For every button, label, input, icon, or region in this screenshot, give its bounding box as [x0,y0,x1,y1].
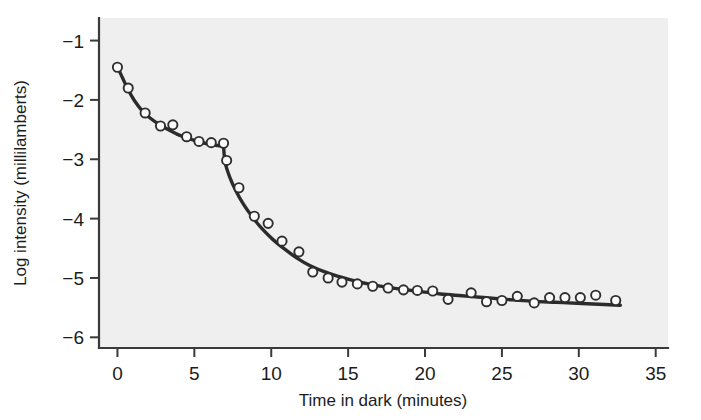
figure-root: −1−2−3−4−5−6 05101520253035 Time in dark… [0,0,701,420]
data-point-marker [513,292,522,301]
y-axis-title: Log intensity (millilamberts) [11,80,30,286]
data-point-marker [294,247,303,256]
data-point-marker [413,286,422,295]
y-axis-tick-labels: −1−2−3−4−5−6 [62,31,84,349]
y-tick-label: −2 [62,90,84,111]
data-point-marker [611,296,620,305]
data-point-marker [399,285,408,294]
data-point-marker [591,291,600,300]
y-tick-label: −3 [62,149,84,170]
data-point-marker [182,132,191,141]
data-point-marker [234,183,243,192]
x-axis-tick-labels: 05101520253035 [112,363,666,384]
y-tick-label: −4 [62,209,84,230]
y-tick-label: −1 [62,31,84,52]
x-axis-ticks [117,348,655,357]
data-point-marker [219,139,228,148]
x-tick-label: 0 [112,363,123,384]
x-tick-label: 35 [645,363,666,384]
y-tick-label: −5 [62,268,84,289]
data-point-marker [545,293,554,302]
data-point-marker [353,279,362,288]
data-point-marker [467,288,476,297]
data-point-marker [141,108,150,117]
data-point-marker [124,83,133,92]
data-point-marker [207,138,216,147]
x-tick-label: 15 [338,363,359,384]
x-tick-label: 20 [414,363,435,384]
data-point-marker [156,121,165,130]
data-point-marker [576,293,585,302]
x-axis-title: Time in dark (minutes) [299,391,467,410]
data-point-marker [443,295,452,304]
data-point-marker [560,293,569,302]
data-point-marker [113,63,122,72]
data-point-marker [497,296,506,305]
y-axis-ticks [90,41,99,338]
data-point-marker [337,278,346,287]
data-point-marker [194,137,203,146]
data-point-marker [530,298,539,307]
data-point-marker [264,219,273,228]
data-point-marker [250,212,259,221]
data-point-marker [324,273,333,282]
data-point-marker [428,286,437,295]
x-tick-label: 10 [261,363,282,384]
y-tick-label: −6 [62,327,84,348]
dark-adaptation-chart: −1−2−3−4−5−6 05101520253035 Time in dark… [0,0,701,420]
data-point-marker [384,283,393,292]
data-point-marker [222,156,231,165]
data-point-marker [277,237,286,246]
x-tick-label: 5 [189,363,200,384]
data-point-marker [308,267,317,276]
data-point-marker [368,282,377,291]
x-tick-label: 30 [568,363,589,384]
x-tick-label: 25 [491,363,512,384]
data-point-marker [482,297,491,306]
data-point-marker [168,120,177,129]
